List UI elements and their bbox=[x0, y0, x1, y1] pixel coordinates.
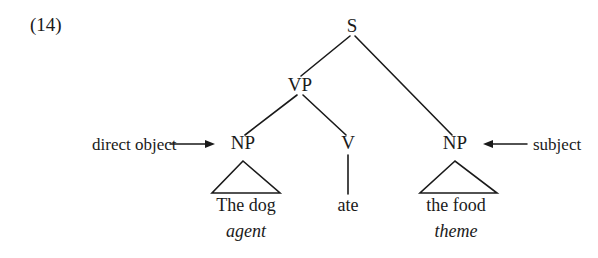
tree-node-v: V bbox=[341, 133, 355, 152]
edge-s-np-right bbox=[355, 36, 452, 135]
triangle-the-food bbox=[420, 161, 497, 193]
syntax-tree-figure: (14) S VP NP bbox=[0, 0, 598, 258]
edge-s-vp bbox=[301, 36, 350, 76]
terminal-the-dog: The dog bbox=[216, 196, 275, 214]
right-arrow-icon bbox=[205, 140, 215, 148]
tree-node-np-right: NP bbox=[443, 133, 467, 152]
edge-vp-np-left bbox=[245, 95, 297, 135]
role-label-theme: theme bbox=[435, 222, 478, 240]
triangle-the-dog bbox=[212, 161, 280, 193]
edge-vp-v bbox=[303, 95, 346, 135]
left-arrow-icon bbox=[483, 140, 493, 148]
role-label-agent: agent bbox=[226, 222, 266, 240]
tree-node-vp: VP bbox=[288, 75, 312, 94]
tree-node-s: S bbox=[347, 16, 358, 35]
annotation-direct-object: direct object bbox=[92, 136, 177, 153]
annotation-subject: subject bbox=[533, 136, 581, 153]
tree-node-np-left: NP bbox=[231, 133, 255, 152]
terminal-the-food: the food bbox=[426, 196, 485, 214]
terminal-ate: ate bbox=[338, 196, 359, 214]
tree-lines-layer bbox=[0, 0, 598, 258]
